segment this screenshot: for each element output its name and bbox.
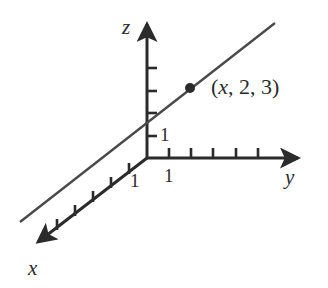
y-axis [147,148,298,158]
point-coordinate-label: (x, 2, 3) [211,76,279,98]
x-axis-unit-tick-label: 1 [130,171,140,190]
coordinate-axes-figure: z y x 1 1 1 (x, 2, 3) [0,0,328,288]
y-axis-label: y [285,167,294,188]
z-axis-label: z [122,17,130,38]
z-axis-unit-tick-label: 1 [160,125,170,144]
x-axis-label: x [28,258,37,279]
point-label-comma-2: , [250,74,261,99]
point-label-close-paren: ) [272,74,279,99]
y-axis-unit-tick-label: 1 [164,166,174,185]
point-label-z-value: 3 [261,74,272,99]
plotted-point-marker [185,83,195,93]
z-axis [147,24,157,158]
point-label-x-variable: x [218,74,228,99]
point-label-comma-1: , [228,74,239,99]
point-label-y-value: 2 [239,74,250,99]
